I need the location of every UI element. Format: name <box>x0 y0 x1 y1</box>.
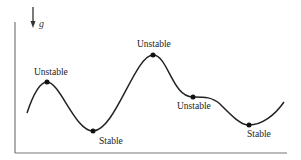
label-unstable-1: Unstable <box>34 67 68 77</box>
point-unstable-3 <box>191 95 196 100</box>
point-unstable-1 <box>45 80 50 85</box>
label-stable-1: Stable <box>99 136 123 146</box>
energy-landscape-diagram: g Unstable Stable Unstable Unstable Stab… <box>0 0 301 160</box>
gravity-arrow-icon <box>31 7 36 28</box>
point-unstable-2 <box>151 53 156 58</box>
point-stable-2 <box>247 123 252 128</box>
point-stable-1 <box>91 129 96 134</box>
label-unstable-2: Unstable <box>137 39 171 49</box>
label-stable-2: Stable <box>247 129 271 139</box>
label-unstable-3: Unstable <box>177 101 211 111</box>
gravity-label: g <box>39 18 44 29</box>
